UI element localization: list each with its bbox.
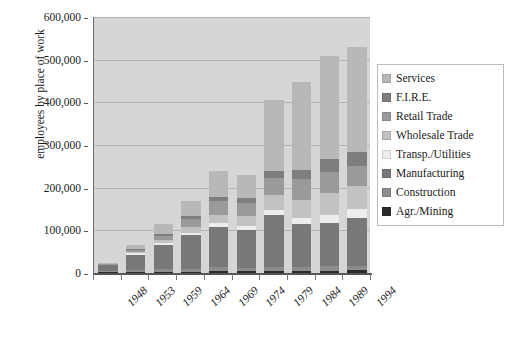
bar-segment (181, 201, 200, 217)
bar-segment (320, 172, 339, 193)
legend-swatch (382, 150, 391, 159)
x-axis-tick-label: 1984 (318, 284, 343, 309)
legend-swatch (382, 131, 391, 140)
bar-segment (237, 230, 256, 268)
legend-item: Services (382, 69, 500, 88)
bar-segment (126, 255, 145, 270)
y-axis-tick-mark (84, 274, 88, 275)
bar-segment (292, 200, 311, 219)
bar-segment (209, 171, 228, 197)
legend-label: Services (396, 73, 435, 85)
bar-segment (181, 219, 200, 228)
stacked-bar (292, 82, 311, 273)
x-axis-tick-label: 1974 (263, 284, 288, 309)
bar-segment (264, 178, 283, 195)
x-axis-tick-mark (232, 274, 233, 280)
x-axis-tick-mark (342, 274, 343, 280)
y-axis-tick-mark (84, 231, 88, 232)
y-axis-tick-labels: 0100,000200,000300,000400,000500,000600,… (22, 0, 88, 340)
x-axis-tick-label: 1948 (125, 284, 150, 309)
chart-figure: employees by place of work 0100,000200,0… (0, 0, 507, 340)
y-axis-tick-mark (84, 18, 88, 19)
y-axis-tick-label: 400,000 (44, 96, 88, 108)
stacked-bar (237, 175, 256, 273)
y-axis-tick-label: 0 (75, 267, 88, 279)
y-axis-tick-mark (84, 61, 88, 62)
legend-item: Transp./Utilities (382, 145, 500, 164)
bar-segment (209, 215, 228, 223)
stacked-bar (98, 263, 117, 273)
x-axis-tick-mark (121, 274, 122, 280)
legend-label: Transp./Utilities (396, 149, 471, 161)
bar-segment (292, 170, 311, 179)
x-axis-tick-mark (287, 274, 288, 280)
y-axis-tick-label: 500,000 (44, 54, 88, 66)
legend-label: Wholesale Trade (396, 130, 474, 142)
bar-segment (154, 224, 173, 233)
bar-segment (237, 203, 256, 217)
legend-item: Agr./Mining (382, 202, 500, 221)
y-axis-tick-label: 600,000 (44, 11, 88, 23)
stacked-bar (264, 100, 283, 273)
bar-segment (154, 245, 173, 269)
bar-segment (292, 82, 311, 169)
legend-swatch (382, 169, 391, 178)
x-axis-tick-label: 1953 (152, 284, 177, 309)
bar-segment (347, 47, 366, 152)
bar-segment (347, 186, 366, 209)
legend-item: Construction (382, 183, 500, 202)
stacked-bar (154, 224, 173, 273)
legend-label: F.I.R.E. (396, 92, 432, 104)
y-axis-tick-mark (84, 189, 88, 190)
bar-segment (237, 175, 256, 198)
bar-segment (320, 215, 339, 224)
bar-segment (264, 195, 283, 210)
legend-item: Manufacturing (382, 164, 500, 183)
bar-segment (209, 227, 228, 268)
x-axis-tick-labels: 1948195319591964196919741979198419891994 (93, 281, 372, 339)
x-axis-ticks (93, 274, 372, 281)
legend-swatch (382, 112, 391, 121)
y-axis-tick-label: 100,000 (44, 224, 88, 236)
y-axis-tick-label: 300,000 (44, 139, 88, 151)
x-axis-tick-mark (315, 274, 316, 280)
bar-series-group (94, 17, 370, 273)
x-axis-tick-label: 1964 (208, 284, 233, 309)
bar-segment (264, 215, 283, 266)
x-axis-tick-label: 1969 (235, 284, 260, 309)
x-axis-tick-mark (204, 274, 205, 280)
x-axis-tick-mark (148, 274, 149, 280)
y-axis-tick-label: 200,000 (44, 182, 88, 194)
legend-label: Retail Trade (396, 111, 453, 123)
bar-segment (347, 218, 366, 266)
x-axis-tick-mark (93, 274, 94, 280)
legend-swatch (382, 93, 391, 102)
y-axis-tick-mark (84, 146, 88, 147)
bar-segment (320, 56, 339, 158)
bar-segment (347, 209, 366, 218)
legend: ServicesF.I.R.E.Retail TradeWholesale Tr… (377, 64, 504, 226)
stacked-bar (209, 171, 228, 273)
legend-item: Wholesale Trade (382, 126, 500, 145)
bar-segment (320, 159, 339, 172)
stacked-bar (181, 201, 200, 273)
x-axis-tick-label: 1989 (346, 284, 371, 309)
stacked-bar (126, 245, 145, 273)
stacked-bar (347, 47, 366, 273)
bar-segment (264, 171, 283, 179)
bar-segment (320, 223, 339, 266)
x-axis-tick-label: 1959 (180, 284, 205, 309)
bar-segment (209, 201, 228, 216)
x-axis-tick-label: 1994 (374, 284, 399, 309)
legend-item: F.I.R.E. (382, 88, 500, 107)
plot-area (93, 17, 370, 273)
legend-label: Construction (396, 187, 455, 199)
x-axis-tick-label: 1979 (291, 284, 316, 309)
bar-segment (347, 152, 366, 165)
bar-segment (292, 179, 311, 199)
y-axis-tick-mark (84, 103, 88, 104)
x-axis-tick-mark (370, 274, 371, 280)
bar-segment (320, 193, 339, 215)
bar-segment (264, 100, 283, 170)
x-axis-tick-mark (259, 274, 260, 280)
